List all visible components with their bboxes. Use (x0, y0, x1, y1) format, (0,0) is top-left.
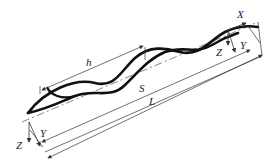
helix-diagram: h S L X Y Z Y Z (0, 0, 272, 166)
center-axis (22, 22, 258, 122)
label-l: L (148, 95, 155, 107)
label-end-z: Z (216, 46, 223, 58)
label-end-x: X (236, 8, 245, 20)
label-s: S (139, 82, 145, 94)
dimension-h: h (40, 46, 145, 94)
start-coordinate-axes: Y Z (16, 122, 48, 151)
dimension-l: L (45, 22, 262, 158)
label-end-y: Y (240, 39, 248, 51)
label-h: h (86, 56, 92, 68)
label-start-y: Y (40, 127, 48, 139)
label-start-z: Z (16, 139, 23, 151)
